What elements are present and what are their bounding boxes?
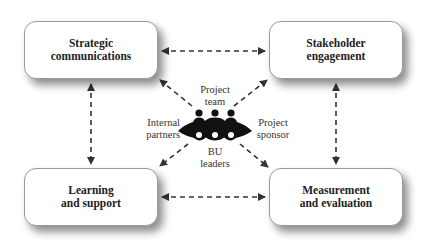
people-group-icon [178,107,252,143]
box-label: Learning and support [61,184,121,210]
box-stakeholder-engagement: Stakeholder engagement [269,21,403,79]
box-measurement-and-evaluation: Measurement and evaluation [269,168,403,226]
role-label-internal-partners: Internal partners [132,117,180,141]
role-label-bu-leaders: BU leaders [192,146,238,170]
role-label-project-team: Project team [193,84,237,108]
box-learning-and-support: Learning and support [24,168,158,226]
connector-center-to-top-right [234,80,267,106]
connector-center-to-bottom-left [160,144,188,166]
role-label-project-sponsor: Project sponsor [248,117,298,141]
connector-center-to-top-left [160,80,192,106]
connector-center-to-bottom-right [240,144,268,167]
box-strategic-communications: Strategic communications [24,21,158,79]
diagram-canvas: Strategic communications Stakeholder eng… [0,0,432,251]
box-label: Measurement and evaluation [300,184,373,210]
box-label: Stakeholder engagement [306,37,365,63]
box-label: Strategic communications [51,37,132,63]
